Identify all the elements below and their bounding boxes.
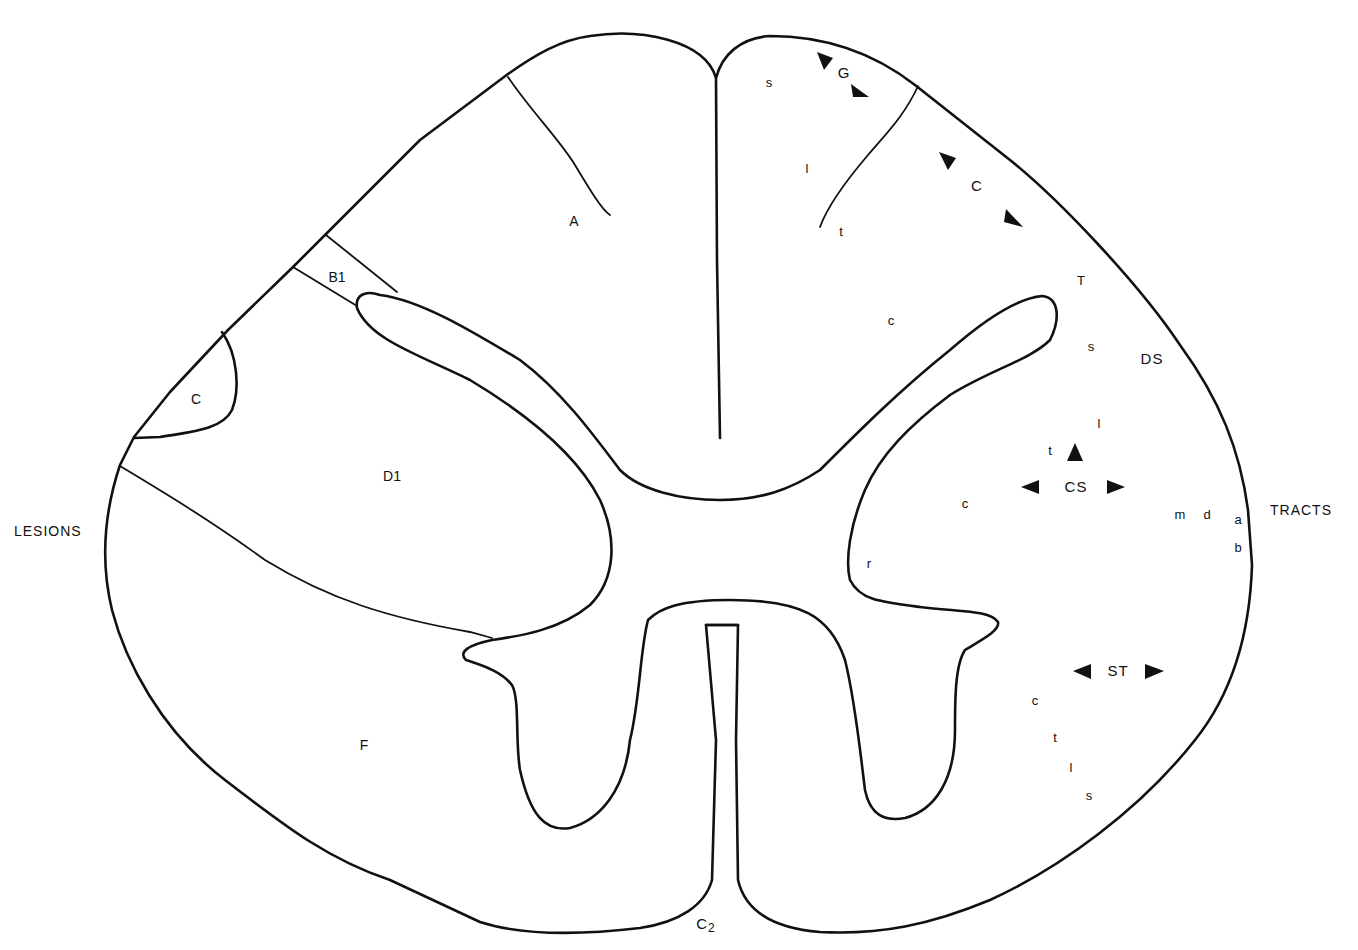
level-letter: C [696, 915, 708, 932]
d1-f-divider [120, 466, 492, 638]
ds-lumbar-label: l [1098, 416, 1101, 431]
st-arrow-right-icon [1145, 664, 1164, 679]
cs-arrow-left-icon [1021, 480, 1039, 494]
tract-gracile-label: G [838, 64, 851, 81]
cuneate-cervical-label: c [888, 313, 895, 328]
gracile-arrow-upper-left-icon [817, 52, 833, 70]
ds-t-label: t [1048, 443, 1052, 458]
spinal-cord-diagram: A B1 C D1 F LESIONS TRACTS C2 G s l t C … [0, 0, 1358, 950]
cuneate-arrow-upper-left-icon [939, 152, 956, 170]
gracile-thoracic-label: t [839, 224, 843, 239]
grey-matter-outline [357, 293, 1057, 828]
dorsal-median-septum [716, 78, 720, 438]
ds-thoracic-label: T [1077, 273, 1085, 288]
cs-arrow-right-icon [1107, 480, 1125, 494]
cs-cervical-label: c [962, 496, 969, 511]
lesion-label-d1: D1 [383, 468, 401, 484]
ventral-a-label: a [1234, 512, 1242, 527]
lesion-label-b1: B1 [328, 269, 345, 285]
right-dorsal-divider [820, 86, 918, 227]
cs-r-label: r [867, 556, 872, 571]
cs-arrow-up-icon [1067, 443, 1083, 461]
c-lesion-outline [134, 332, 237, 438]
level-subscript: 2 [708, 921, 716, 935]
b1-lower-line [293, 267, 357, 306]
st-lumbar-label: l [1070, 760, 1073, 775]
cuneate-arrow-lower-right-fill [1004, 209, 1023, 227]
ds-sacral-label: s [1088, 339, 1095, 354]
ventral-m-label: m [1175, 507, 1186, 522]
lesion-label-c: C [191, 391, 201, 407]
gracile-sacral-label: s [766, 75, 773, 90]
tract-cuneate-label: C [971, 177, 983, 194]
tract-ds-label: DS [1141, 350, 1164, 367]
level-label: C2 [696, 915, 716, 935]
left-dorsal-divider [508, 77, 610, 215]
ventral-d-label: d [1203, 507, 1210, 522]
ventral-b-label: b [1234, 540, 1241, 555]
st-arrow-left-icon [1073, 664, 1091, 679]
st-cervical-label: c [1032, 693, 1039, 708]
st-sacral-label: s [1086, 788, 1093, 803]
tract-cs-label: CS [1065, 478, 1088, 495]
tract-st-label: ST [1107, 662, 1128, 679]
lesions-heading: LESIONS [14, 523, 82, 539]
gracile-lumbar-label: l [806, 161, 809, 176]
gracile-arrow-lower-right-icon [851, 84, 869, 97]
lesion-label-f: F [360, 737, 369, 753]
st-thoracic-label: t [1053, 730, 1057, 745]
lesion-label-a: A [569, 213, 579, 229]
tracts-heading: TRACTS [1270, 502, 1332, 518]
